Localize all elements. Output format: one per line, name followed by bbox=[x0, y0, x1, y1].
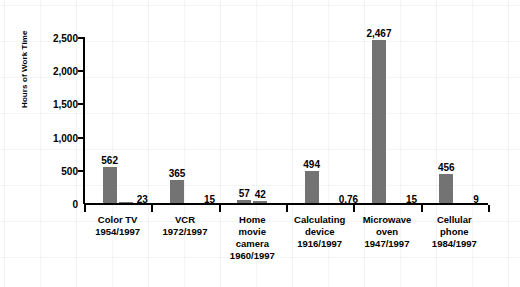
x-axis-separator-tick bbox=[219, 205, 221, 212]
bar-value-label-home-movie-camera-1997: 42 bbox=[255, 189, 266, 200]
y-axis-tick-label: 2,500 bbox=[53, 33, 78, 44]
bar-value-label-microwave-oven-1947: 2,467 bbox=[366, 28, 391, 39]
y-axis-tick-labels: 05001,0001,5002,0002,500 bbox=[40, 0, 78, 287]
y-axis-tick-label: 1,000 bbox=[53, 132, 78, 143]
bar-rect-microwave-oven-1947[interactable] bbox=[372, 40, 386, 204]
y-axis-tick-label: 0 bbox=[72, 199, 78, 210]
category-label-home-movie-camera: Home movie camera 1960/1997 bbox=[219, 214, 286, 262]
bar-chart: Hours of Work Time 05001,0001,5002,0002,… bbox=[0, 0, 520, 287]
bar-group-color-tv: 56223 bbox=[84, 38, 151, 204]
bar-group-home-movie-camera: 5742 bbox=[219, 38, 286, 204]
bar-value-label-vcr-1972: 365 bbox=[169, 168, 186, 179]
bar-value-label-cellular-phone-1984: 456 bbox=[438, 162, 455, 173]
bar-rect-color-tv-1954[interactable] bbox=[103, 167, 117, 204]
bar-rect-vcr-1972[interactable] bbox=[170, 180, 184, 204]
y-axis-tick-label: 1,500 bbox=[53, 99, 78, 110]
bar-group-vcr: 36515 bbox=[151, 38, 218, 204]
category-label-calculating-device: Calculating device 1916/1997 bbox=[286, 214, 353, 250]
bar-group-microwave-oven: 2,46715 bbox=[353, 38, 420, 204]
bar-value-label-calculating-device-1916: 494 bbox=[303, 159, 320, 170]
x-axis-end-tick bbox=[84, 205, 86, 212]
bar-rect-calculating-device-1916[interactable] bbox=[305, 171, 319, 204]
category-label-microwave-oven: Microwave oven 1947/1997 bbox=[353, 214, 420, 250]
x-axis-separator-tick bbox=[286, 205, 288, 212]
x-axis-separator-tick bbox=[353, 205, 355, 212]
y-axis-tick-label: 500 bbox=[61, 165, 78, 176]
bar-group-cellular-phone: 4569 bbox=[421, 38, 488, 204]
y-axis-title: Hours of Work Time bbox=[20, 0, 29, 108]
x-axis-separator-tick bbox=[421, 205, 423, 212]
bar-group-calculating-device: 4940.76 bbox=[286, 38, 353, 204]
bar-value-label-home-movie-camera-1960: 57 bbox=[239, 188, 250, 199]
category-label-cellular-phone: Cellular phone 1984/1997 bbox=[421, 214, 488, 250]
plot-area: 562233651557424940.762,467154569 bbox=[84, 38, 488, 204]
bar-value-label-color-tv-1954: 562 bbox=[101, 155, 118, 166]
x-axis-end-tick bbox=[488, 205, 490, 212]
y-axis-tick-label: 2,000 bbox=[53, 66, 78, 77]
category-label-color-tv: Color TV 1954/1997 bbox=[84, 214, 151, 238]
bar-rect-cellular-phone-1984[interactable] bbox=[439, 174, 453, 204]
x-axis-separator-tick bbox=[151, 205, 153, 212]
category-label-vcr: VCR 1972/1997 bbox=[151, 214, 218, 238]
